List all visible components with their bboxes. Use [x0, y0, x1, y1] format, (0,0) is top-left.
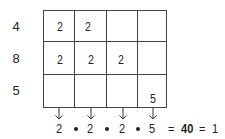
equals-sign-1: =	[168, 122, 174, 136]
grid-line	[137, 11, 138, 107]
grid-cell-r3c4: 5	[147, 92, 159, 106]
multiply-dot-icon	[136, 127, 140, 131]
equals-sign-2: =	[199, 122, 205, 136]
grid-cell-r2c1: 2	[54, 53, 66, 67]
column-product-2: 2	[87, 122, 93, 136]
grid-cell-r2c3: 2	[115, 53, 127, 67]
equation-result: 1	[212, 122, 218, 136]
multiply-dot-icon	[74, 127, 78, 131]
grid-line	[44, 74, 166, 75]
grid-cell-r1c2: 2	[82, 20, 94, 34]
down-arrow-icon	[148, 108, 158, 120]
factor-grid: 2 2 2 2 2 5	[43, 10, 167, 108]
column-product-4: 5	[149, 122, 155, 136]
row-label-2: 8	[10, 52, 22, 66]
grid-cell-r1c1: 2	[54, 20, 66, 34]
column-product-1: 2	[56, 122, 62, 136]
column-product-3: 2	[119, 122, 125, 136]
multiply-dot-icon	[105, 127, 109, 131]
down-arrow-icon	[118, 108, 128, 120]
down-arrow-icon	[86, 108, 96, 120]
grid-line	[74, 11, 75, 107]
row-label-3: 5	[10, 84, 22, 98]
grid-line	[44, 41, 166, 42]
product-total: 40	[181, 122, 193, 136]
grid-cell-r2c2: 2	[85, 53, 97, 67]
grid-line	[106, 11, 107, 107]
row-label-1: 4	[10, 20, 22, 34]
down-arrow-icon	[54, 108, 64, 120]
